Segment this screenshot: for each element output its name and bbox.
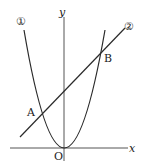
y-axis-label: y <box>58 6 66 19</box>
coordinate-diagram: y x O ① ② A B <box>0 0 143 163</box>
curve-1-label: ① <box>16 15 26 28</box>
origin-label: O <box>54 150 63 163</box>
point-b-label: B <box>104 52 112 65</box>
line-2 <box>20 28 125 137</box>
point-a-label: A <box>26 106 36 119</box>
x-axis-label: x <box>129 142 136 155</box>
line-2-label: ② <box>124 20 134 33</box>
